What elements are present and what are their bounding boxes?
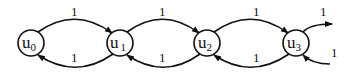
node-u0: u0 [18, 30, 44, 56]
edge-label-u0-u1: 1 [71, 4, 78, 19]
node-u3: u3 [283, 30, 309, 56]
edge-label-in-u3: 1 [331, 45, 338, 60]
edge-u2-u3 [214, 19, 288, 33]
edge-label-u2-u3: 1 [253, 4, 260, 19]
edge-label-u1-u0: 1 [71, 50, 78, 65]
edge-label-u2-u1: 1 [159, 50, 166, 65]
edge-label-u3-u2: 1 [253, 50, 260, 65]
edge-u3-out [303, 24, 332, 32]
edge-in-u3 [303, 55, 330, 64]
edge-label-u3-out: 1 [320, 4, 327, 19]
node-u1: u1 [107, 30, 133, 56]
node-u2: u2 [194, 30, 220, 56]
edge-u3-u2 [214, 54, 289, 67]
state-diagram: 1 1 1 1 1 1 1 1 u0 u1 u2 u3 [0, 0, 346, 76]
edge-u1-u2 [127, 19, 199, 33]
edge-u0-u1 [38, 19, 112, 33]
edge-label-u1-u2: 1 [159, 4, 166, 19]
